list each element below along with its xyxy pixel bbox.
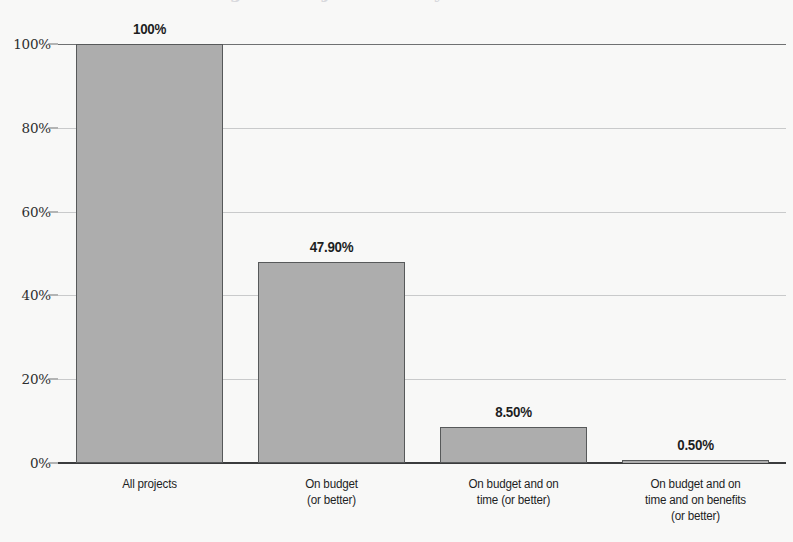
y-tick-label-80: 80%	[0, 120, 51, 136]
plot-area	[58, 44, 786, 463]
y-tick-label-40: 40%	[0, 287, 51, 303]
y-tick-mark-100	[48, 44, 58, 45]
y-tick-label-20: 20%	[0, 371, 51, 387]
bar-chart: 0%20%40%60%80%100% 100%47.90%8.50%0.50% …	[0, 0, 793, 542]
y-tick-label-100: 100%	[0, 36, 51, 52]
y-tick-mark-20	[48, 379, 58, 380]
bar-0[interactable]	[76, 44, 223, 463]
y-tick-mark-60	[48, 211, 58, 212]
x-category-label-1: On budget (or better)	[252, 476, 411, 508]
bar-2[interactable]	[440, 427, 587, 463]
y-tick-label-0: 0%	[0, 455, 51, 471]
bar-value-label-0: 100%	[82, 21, 217, 37]
bar-3[interactable]	[622, 460, 769, 463]
y-tick-mark-0	[48, 463, 58, 464]
y-tick-mark-80	[48, 127, 58, 128]
x-category-label-0: All projects	[70, 476, 229, 492]
x-category-label-2: On budget and on time (or better)	[434, 476, 593, 508]
y-tick-mark-40	[48, 295, 58, 296]
bar-value-label-3: 0.50%	[628, 437, 763, 453]
bar-value-label-2: 8.50%	[446, 404, 581, 420]
bar-value-label-1: 47.90%	[264, 239, 399, 255]
y-tick-label-60: 60%	[0, 204, 51, 220]
bar-1[interactable]	[258, 262, 405, 463]
x-category-label-3: On budget and on time and on benefits (o…	[616, 476, 775, 524]
